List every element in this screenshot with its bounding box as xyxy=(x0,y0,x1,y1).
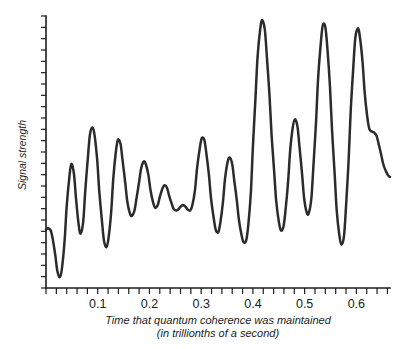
x-tick-label: 0.6 xyxy=(348,297,365,311)
x-tick-label: 0.4 xyxy=(244,297,261,311)
chart-figure: 0.10.20.30.40.50.6 Time that quantum coh… xyxy=(0,0,402,349)
line-chart-svg: 0.10.20.30.40.50.6 Time that quantum coh… xyxy=(0,0,402,349)
x-tick-label: 0.1 xyxy=(89,297,106,311)
x-tick-label: 0.2 xyxy=(141,297,158,311)
y-axis-title: Signal strength xyxy=(16,120,28,190)
x-tick-label: 0.3 xyxy=(192,297,209,311)
x-axis-title-line1: Time that quantum coherence was maintain… xyxy=(105,314,331,326)
x-axis-ticks xyxy=(46,288,387,294)
x-tick-label: 0.5 xyxy=(296,297,313,311)
x-axis-tick-labels: 0.10.20.30.40.50.6 xyxy=(89,297,365,311)
signal-strength-line xyxy=(46,20,390,277)
x-axis-title-line2: (in trillionths of a second) xyxy=(157,327,280,339)
